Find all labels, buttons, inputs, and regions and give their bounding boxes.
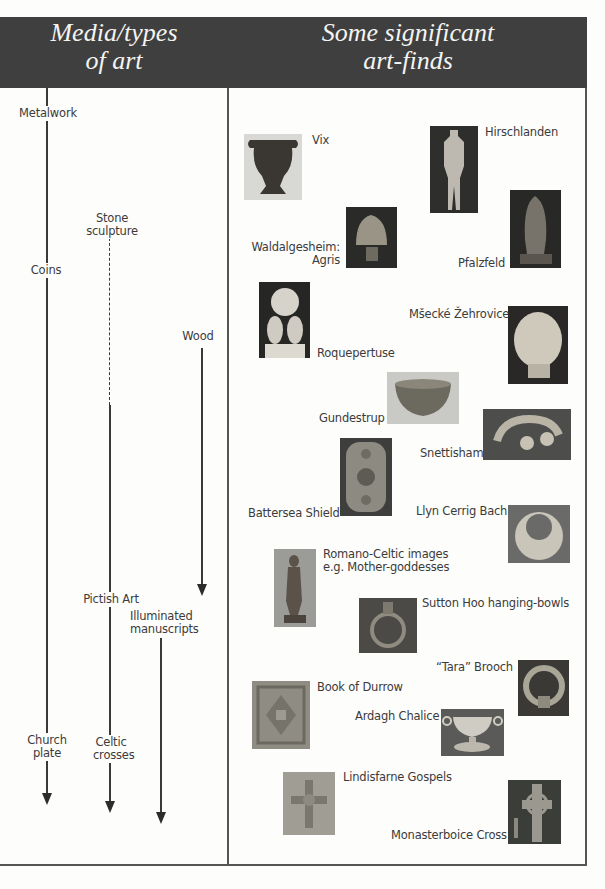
metalwork-timeline [46,88,48,793]
media-label-pictish-art: Pictish Art [83,592,139,607]
find-label-lindisfarne-gospels: Lindisfarne Gospels [343,771,452,784]
sutton-hoo-bowl-image [359,598,417,653]
find-label-tara-brooch: “Tara” Brooch [436,661,513,674]
find-label-battersea-shield: Battersea Shield [248,507,340,520]
roquepertuse-sculpture-image [259,282,310,358]
heading-line: Some significant [230,19,586,47]
header-band: Media/types of art Some significant art-… [0,17,587,88]
heading-line: Media/types [0,19,228,47]
find-label-msecke-zehrovice: Mšecké Žehrovice [409,308,509,321]
media-label-illuminated-manuscripts: Illuminated manuscripts [130,609,192,637]
find-label-pfalzfeld: Pfalzfeld [458,257,505,270]
find-label-sutton-hoo: Sutton Hoo hanging-bowls [422,597,569,610]
media-types-heading: Media/types of art [0,19,228,75]
hirschlanden-warrior-image [430,126,478,213]
media-label-celtic-crosses: Celtic crosses [93,735,129,763]
find-label-book-of-durrow: Book of Durrow [317,681,403,694]
book-of-durrow-image [252,681,310,749]
arrowhead-icon [105,801,115,813]
media-label-stone-sculpture: Stone sculpture [71,211,153,239]
find-label-roquepertuse: Roquepertuse [317,347,395,360]
tara-brooch-image [518,660,569,716]
find-label-waldalgesheim: Waldalgesheim: Agris [250,241,340,267]
heading-line: art-finds [230,47,586,75]
find-label-ardagh-chalice: Ardagh Chalice [355,710,439,723]
find-label-vix: Vix [312,134,329,147]
find-label-hirschlanden: Hirschlanden [485,126,558,139]
column-divider [227,88,229,866]
find-label-llyn-cerrig-bach: Llyn Cerrig Bach [416,505,507,518]
snettisham-torc-image [483,409,571,460]
find-label-gundestrup: Gundestrup [319,412,385,425]
lindisfarne-gospels-image [283,772,335,835]
pfalzfeld-pillar-image [510,190,561,268]
find-label-monasterboice-cross: Monasterboice Cross [391,829,507,842]
arrowhead-icon [197,584,207,596]
media-label-wood: Wood [181,329,215,344]
mother-goddess-statue-image [274,549,316,627]
wood-timeline [201,348,203,584]
find-label-romano-celtic: Romano-Celtic images e.g. Mother-goddess… [323,548,449,574]
frame-right-border [585,88,587,866]
find-label-snettisham: Snettisham [420,447,483,460]
vix-krater-image [244,134,302,200]
ardagh-chalice-image [441,709,504,756]
msecke-zehrovice-head-image [508,306,568,384]
llyn-cerrig-bach-plaque-image [508,505,570,563]
arrowhead-icon [156,812,166,824]
heading-line: of art [0,47,228,75]
media-label-church-plate: Church plate [27,733,67,761]
agris-helmet-image [346,207,397,268]
manuscripts-timeline [160,638,162,812]
stone-sculpture-dashed-line [109,228,110,405]
monasterboice-cross-image [508,780,561,844]
media-label-coins: Coins [29,263,63,278]
battersea-shield-image [340,438,392,516]
frame-bottom-border [0,864,587,866]
gundestrup-cauldron-image [387,372,459,424]
media-label-metalwork: Metalwork [18,106,78,121]
arrowhead-icon [42,793,52,805]
art-finds-heading: Some significant art-finds [230,19,586,75]
